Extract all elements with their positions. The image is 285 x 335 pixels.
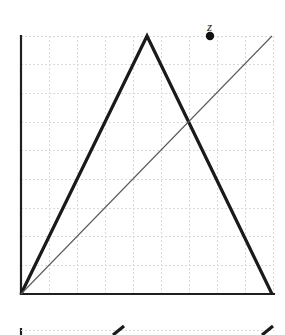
figure-background xyxy=(0,0,285,335)
figure-container: z xyxy=(0,0,285,335)
point-label-z: z xyxy=(207,20,212,33)
plot-canvas xyxy=(0,0,285,335)
